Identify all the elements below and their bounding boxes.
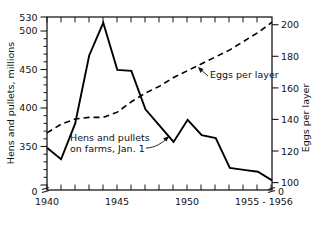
x-ticklabel-1955-1956: 1955 - 1956 — [235, 196, 293, 207]
y-right-major-ticks — [272, 25, 279, 183]
x-axis-top-ticks — [47, 17, 257, 23]
y-left-ticklabel-500: 500 — [19, 25, 37, 36]
y-left-ticklabel-zero: 0 — [31, 186, 37, 197]
plot-frame — [47, 17, 272, 190]
y-right-ticklabel-120: 120 — [281, 146, 299, 157]
y-right-ticklabel-200: 200 — [281, 19, 299, 30]
annotation-hens-line1: Hens and pullets — [70, 132, 150, 143]
y-right-axis-title: Eggs per layer — [300, 84, 311, 153]
annotation-hens-and-pullets: Hens and pullets on farms, Jan. 1 — [70, 132, 169, 154]
x-axis-bottom-ticks — [47, 185, 271, 191]
annotation-eggs-arrow-icon — [198, 67, 204, 73]
series-hens-and-pullets — [47, 23, 272, 181]
annotation-eggs-label: Eggs per layer — [210, 69, 279, 80]
y-right-ticklabel-180: 180 — [281, 51, 299, 62]
annotation-hens-line2: on farms, Jan. 1 — [70, 143, 145, 154]
x-ticklabel-1945: 1945 — [105, 196, 129, 207]
chart-figure: 530 500 450 400 350 0 200 180 160 140 12… — [0, 0, 320, 230]
hens-pullets-eggs-line-chart: 530 500 450 400 350 0 200 180 160 140 12… — [0, 0, 320, 230]
y-left-ticklabel-400: 400 — [19, 102, 37, 113]
y-left-ticklabel-350: 350 — [19, 141, 37, 152]
y-left-ticklabel-530: 530 — [19, 12, 37, 23]
y-right-ticklabel-zero: 0 — [278, 186, 284, 197]
annotation-eggs-per-layer: Eggs per layer — [198, 67, 279, 80]
y-right-ticklabel-140: 140 — [281, 114, 299, 125]
y-left-axis-title: Hens and pullets, millions — [5, 42, 16, 164]
x-ticklabel-1950: 1950 — [175, 196, 199, 207]
y-left-major-ticks — [41, 17, 48, 185]
y-right-ticklabel-160: 160 — [281, 83, 299, 94]
y-left-ticklabel-450: 450 — [19, 64, 37, 75]
x-ticklabel-1940: 1940 — [35, 196, 59, 207]
